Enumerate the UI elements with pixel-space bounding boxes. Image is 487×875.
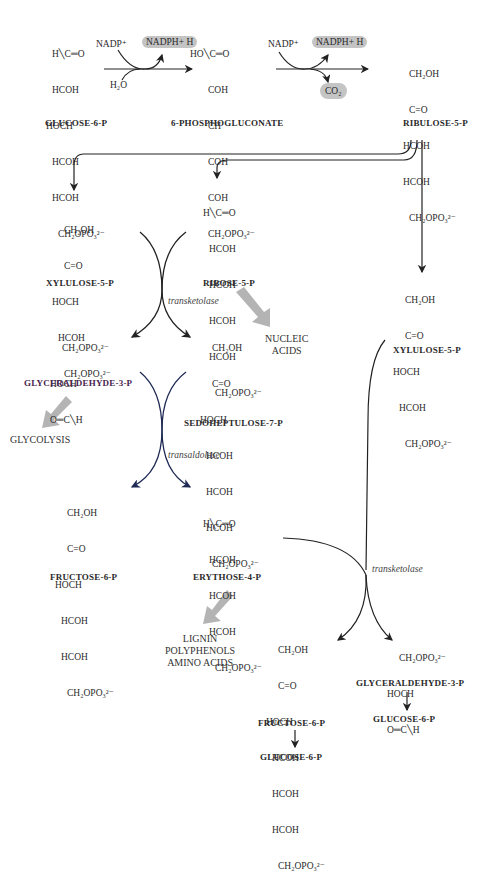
struct-row: COH [208,156,255,168]
struct-row: HCOH [52,156,105,168]
ribulose5p-structure: CH₂OH C=O HCOH HCOH CH₂OPO₃²⁻ [403,44,456,236]
g3p-bottom-structure: CH₂OPO₃²⁻ HOCH O═C╲H [387,628,446,748]
fructose6p-left-label: FRUCTOSE-6-P [50,572,117,582]
transketolase-label-3: transketolase [372,564,423,574]
struct-row: COH [208,84,255,96]
struct-row: HCOH [403,176,456,188]
struct-row: HOCH [52,296,111,308]
erythrose4p-label: ERYTHOSE-4-P [193,572,261,582]
struct-row: CH₂OH [67,507,114,519]
transaldolase-label: transaldolase [168,450,220,460]
glycolysis-product: GLYCOLYSIS [10,434,70,446]
struct-row: H╲C═O [52,48,105,60]
nadph-out-arrow-1 [118,50,162,69]
product-line: POLYPHENOLS [165,645,235,657]
struct-row: CH₂OH [212,342,259,354]
struct-row: HCOH [399,402,452,414]
struct-row: CH₂OH [405,294,452,306]
ribose5p-label: RIBOSE-5-P [203,278,255,288]
struct-row: CH₂OH [409,68,456,80]
co2-out: CO₂ [320,83,347,99]
struct-row: C=O [278,680,325,692]
xylulose-right-descent [366,340,385,570]
struct-row: HCOH [209,243,262,255]
product-line: ACIDS [265,345,308,357]
struct-row: C=O [67,543,114,555]
ribulose5p-label: RIBULOSE-5-P [403,118,468,128]
fructose6p-left-structure: CH₂OH C=O HOCH HCOH HCOH CH₂OPO₃²⁻ [55,483,114,711]
co2-out-arrow [310,69,328,82]
struct-row: CH₂OPO₃²⁻ [409,212,456,224]
nadph-out-2: NADPH+ H [312,36,367,48]
struct-row: CH₂OPO₃²⁻ [67,687,114,699]
struct-row: CH₂OPO₃²⁻ [399,652,446,664]
struct-row: CH₂OPO₃²⁻ [405,438,452,450]
struct-row: H╲C═O [203,207,262,219]
product-line: AMINO ACIDS [165,657,235,669]
struct-row: CH₂OPO₃²⁻ [278,860,325,872]
struct-row: C=O [409,104,456,116]
product-line: LIGNIN [165,633,235,645]
glucose6p-label: GLUCOSE-6-P [45,118,107,128]
xylulose5p-right-structure: CH₂OH C=O HOCH HCOH CH₂OPO₃²⁻ [393,270,452,462]
struct-row: HOCH [393,366,452,378]
glucose6p-bottom-right-label: GLUCOSE-6-P [373,714,435,724]
phosphogluconate-label: 6-PHOSPHOGLUCONATE [171,118,283,128]
struct-row: C=O [212,378,259,390]
transketolase-curve-left [132,232,162,337]
struct-row: HCOH [52,84,105,96]
product-line: NUCLEIC [265,333,308,345]
struct-row: HCOH [403,140,456,152]
struct-row: CH₂OH [278,644,325,656]
nadph-out-arrow-2 [279,52,328,69]
struct-row: HCOH [61,651,114,663]
g3p-bottom-label: GLYCERALDEHYDE-3-P [356,678,464,688]
struct-row: HCOH [61,615,114,627]
struct-row: HOCH [387,688,446,700]
nadp-in-1: NADP⁺ [96,38,127,49]
struct-row: CH₂OPO₃²⁻ [62,342,109,354]
nucleic-acids-product: NUCLEIC ACIDS [265,333,308,357]
struct-row: HCOH [272,788,325,800]
transketolase-curve-right [162,232,190,337]
struct-row: O═C╲H [50,414,109,426]
xylulose5p-right-label: XYLULOSE-5-P [393,345,461,355]
struct-row: HCOH [209,590,262,602]
struct-row: H╲C═O [203,518,262,530]
lignin-product: LIGNIN POLYPHENOLS AMINO ACIDS [165,633,235,669]
transketolase-label-1: transketolase [168,296,219,306]
fructose6p-bottom-structure: CH₂OH C=O HOCH HCOH HCOH HCOH CH₂OPO₃²⁻ [266,620,325,875]
transaldolase-curve-right [162,372,190,487]
fructose6p-bottom-label: FRUCTOSE-6-P [258,718,325,728]
g3p-left-label: GLYCERALDEHYDE-3-P [24,378,132,388]
struct-row: HCOH [209,554,262,566]
struct-row: C=O [405,330,452,342]
struct-row: HO╲C═O [190,48,255,60]
water-in: H₂O [110,80,127,90]
sedoheptulose7p-label: SEDOHEPTULOSE-7-P [184,418,283,428]
struct-row: CH₂OH [64,224,111,236]
water-in-curve [122,69,140,80]
nadp-in-2: NADP⁺ [268,38,299,49]
glucose6p-bottom-left-label: GLUCOSE-6-P [260,752,322,762]
xylulose5p-left-label: XYLULOSE-5-P [46,278,114,288]
struct-row: O═C╲H [387,724,446,736]
transaldolase-curve-left [132,372,162,487]
struct-row: C=O [64,260,111,272]
struct-row: HCOH [272,824,325,836]
